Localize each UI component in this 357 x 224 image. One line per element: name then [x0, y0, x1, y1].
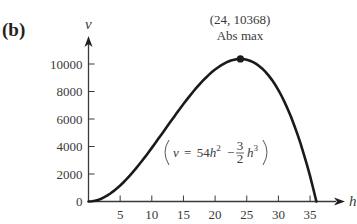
y-tick-label: 2000	[57, 167, 83, 182]
x-tick-label: 35	[304, 207, 317, 222]
x-tick-label: 30	[272, 207, 285, 222]
y-tick-label: 0	[76, 194, 83, 209]
x-tick-label: 15	[177, 207, 190, 222]
data-curve	[89, 59, 317, 202]
chart-canvas: (b) v 0200040006000800010000 h 510152025…	[0, 0, 357, 224]
panel-label: (b)	[2, 19, 25, 41]
y-axis: v 0200040006000800010000	[50, 16, 95, 209]
x-tick-label: 10	[145, 207, 158, 222]
abs-max-point	[237, 55, 244, 62]
x-tick-label: 5	[117, 207, 124, 222]
y-tick-label: 8000	[57, 84, 83, 99]
x-axis-label: h	[349, 193, 357, 209]
y-axis-label: v	[85, 16, 92, 32]
y-tick-label: 6000	[57, 112, 83, 127]
svg-text:2: 2	[237, 151, 244, 166]
y-tick-label: 10000	[50, 57, 83, 72]
svg-text:h3: h3	[247, 143, 259, 160]
max-label: Abs max	[217, 28, 264, 43]
svg-text:v = 54h2 −: v = 54h2 −	[173, 139, 234, 160]
y-tick-label: 4000	[57, 139, 83, 154]
x-tick-label: 20	[209, 207, 222, 222]
max-coord-label: (24, 10368)	[210, 12, 271, 27]
x-tick-label: 25	[240, 207, 253, 222]
equation-label: v = 54h2 − 3 2 h3	[165, 138, 267, 166]
